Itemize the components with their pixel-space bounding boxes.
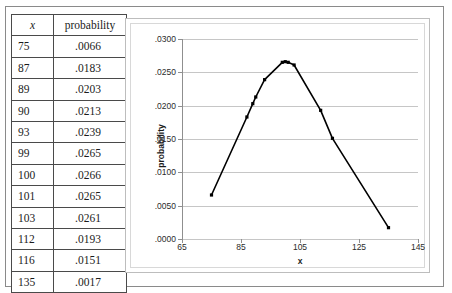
table-cell-x: 112 <box>12 229 54 250</box>
table-head: x probability <box>12 15 127 36</box>
data-point-marker <box>284 60 287 63</box>
table-cell-x: 135 <box>12 271 54 292</box>
plot-area: .0000.0050.0100.0150.0200.0250.0300 6585… <box>182 39 418 239</box>
series-markers <box>210 60 390 229</box>
y-axis-tick-label: .0100 <box>155 167 176 177</box>
table-cell-x: 100 <box>12 164 54 185</box>
data-point-marker <box>281 61 284 64</box>
table-cell-x: 90 <box>12 100 54 121</box>
y-axis-tick-label: .0000 <box>155 234 176 244</box>
table-cell-probability: .0203 <box>54 79 127 100</box>
data-point-marker <box>263 78 266 81</box>
x-axis-tick-label: 125 <box>352 242 366 252</box>
chart-outer-frame: probability x .0000.0050.0100.0150.0200.… <box>125 18 430 273</box>
y-axis-tick-label: .0050 <box>155 201 176 211</box>
screenshot-root: x probability 75.006687.018389.020390.02… <box>0 0 452 293</box>
table-row: 100.0266 <box>12 164 127 185</box>
y-axis-tick-label: .0250 <box>155 67 176 77</box>
table-cell-probability: .0239 <box>54 122 127 143</box>
table-row: 135.0017 <box>12 271 127 292</box>
table-cell-probability: .0183 <box>54 57 127 78</box>
table-header-x: x <box>12 15 54 36</box>
table-cell-probability: .0017 <box>54 271 127 292</box>
table-cell-probability: .0066 <box>54 36 127 57</box>
table-row: 75.0066 <box>12 36 127 57</box>
table-row: 116.0151 <box>12 250 127 271</box>
data-point-marker <box>331 137 334 140</box>
table-cell-probability: .0266 <box>54 164 127 185</box>
table-cell-probability: .0265 <box>54 186 127 207</box>
data-point-marker <box>387 226 390 229</box>
table-cell-probability: .0193 <box>54 229 127 250</box>
series-line <box>212 62 389 228</box>
x-axis-tick-label: 85 <box>236 242 245 252</box>
table-cell-x: 103 <box>12 207 54 228</box>
y-axis-tick-label: .0200 <box>155 101 176 111</box>
table-body: 75.006687.018389.020390.021393.023999.02… <box>12 36 127 293</box>
y-axis-tick-label: .0150 <box>155 134 176 144</box>
table-row: 89.0203 <box>12 79 127 100</box>
x-axis-title: x <box>182 256 418 266</box>
data-point-marker <box>293 63 296 66</box>
table-cell-probability: .0151 <box>54 250 127 271</box>
table-cell-x: 89 <box>12 79 54 100</box>
data-point-marker <box>287 61 290 64</box>
table-row: 93.0239 <box>12 122 127 143</box>
table-header-probability: probability <box>54 15 127 36</box>
x-axis-tick-label: 145 <box>411 242 425 252</box>
probability-series <box>182 39 418 239</box>
y-axis-tick-label: .0300 <box>155 34 176 44</box>
table-cell-x: 99 <box>12 143 54 164</box>
table-header-row: x probability <box>12 15 127 36</box>
table-cell-probability: .0261 <box>54 207 127 228</box>
data-point-marker <box>251 102 254 105</box>
data-point-marker <box>245 115 248 118</box>
table-row: 87.0183 <box>12 57 127 78</box>
table-row: 101.0265 <box>12 186 127 207</box>
table-row: 112.0193 <box>12 229 127 250</box>
table-cell-x: 93 <box>12 122 54 143</box>
table-cell-x: 101 <box>12 186 54 207</box>
table-cell-x: 87 <box>12 57 54 78</box>
data-point-marker <box>319 109 322 112</box>
x-axis-tick-label: 65 <box>177 242 186 252</box>
x-axis-tick-label: 105 <box>293 242 307 252</box>
chart-inner-frame: probability x .0000.0050.0100.0150.0200.… <box>130 23 425 268</box>
probability-table: x probability 75.006687.018389.020390.02… <box>11 14 127 293</box>
table-row: 103.0261 <box>12 207 127 228</box>
y-axis-title: probability <box>156 124 166 167</box>
data-point-marker <box>210 193 213 196</box>
table-cell-probability: .0265 <box>54 143 127 164</box>
data-point-marker <box>254 95 257 98</box>
table-row: 99.0265 <box>12 143 127 164</box>
table-cell-x: 116 <box>12 250 54 271</box>
table-cell-probability: .0213 <box>54 100 127 121</box>
table-row: 90.0213 <box>12 100 127 121</box>
table-cell-x: 75 <box>12 36 54 57</box>
